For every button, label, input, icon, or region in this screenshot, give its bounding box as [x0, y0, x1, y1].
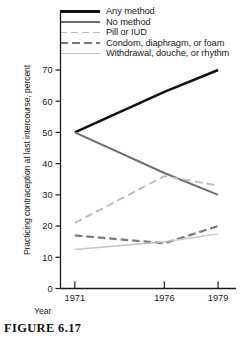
series-line-pill-or-iud — [75, 176, 218, 223]
series-line-condom-diaphragm-or-foam — [75, 226, 218, 243]
y-axis-tick-labels: 010203040506070 — [42, 65, 52, 294]
y-tick-label-50: 50 — [42, 128, 52, 138]
chart-series-lines — [75, 70, 218, 249]
figure-container: Any method No method Pill or IUD Condom,… — [0, 0, 240, 339]
y-tick-label-60: 60 — [42, 97, 52, 107]
series-line-any-method — [75, 70, 218, 132]
x-tick-label-1976: 1976 — [154, 293, 174, 303]
figure-caption: FIGURE 6.17 — [4, 321, 81, 336]
x-axis-ticks — [75, 282, 218, 289]
chart-plot-area: 010203040506070 197119761979 — [0, 0, 240, 339]
y-tick-label-20: 20 — [42, 221, 52, 231]
series-line-no-method — [75, 132, 218, 194]
x-axis-tick-labels: 197119761979 — [65, 293, 229, 303]
y-tick-label-70: 70 — [42, 65, 52, 75]
x-tick-label-1979: 1979 — [208, 293, 228, 303]
y-tick-label-10: 10 — [42, 253, 52, 263]
x-tick-label-1971: 1971 — [65, 293, 85, 303]
y-tick-label-30: 30 — [42, 190, 52, 200]
y-axis-ticks — [56, 70, 61, 289]
y-tick-label-0: 0 — [47, 284, 52, 294]
y-tick-label-40: 40 — [42, 159, 52, 169]
